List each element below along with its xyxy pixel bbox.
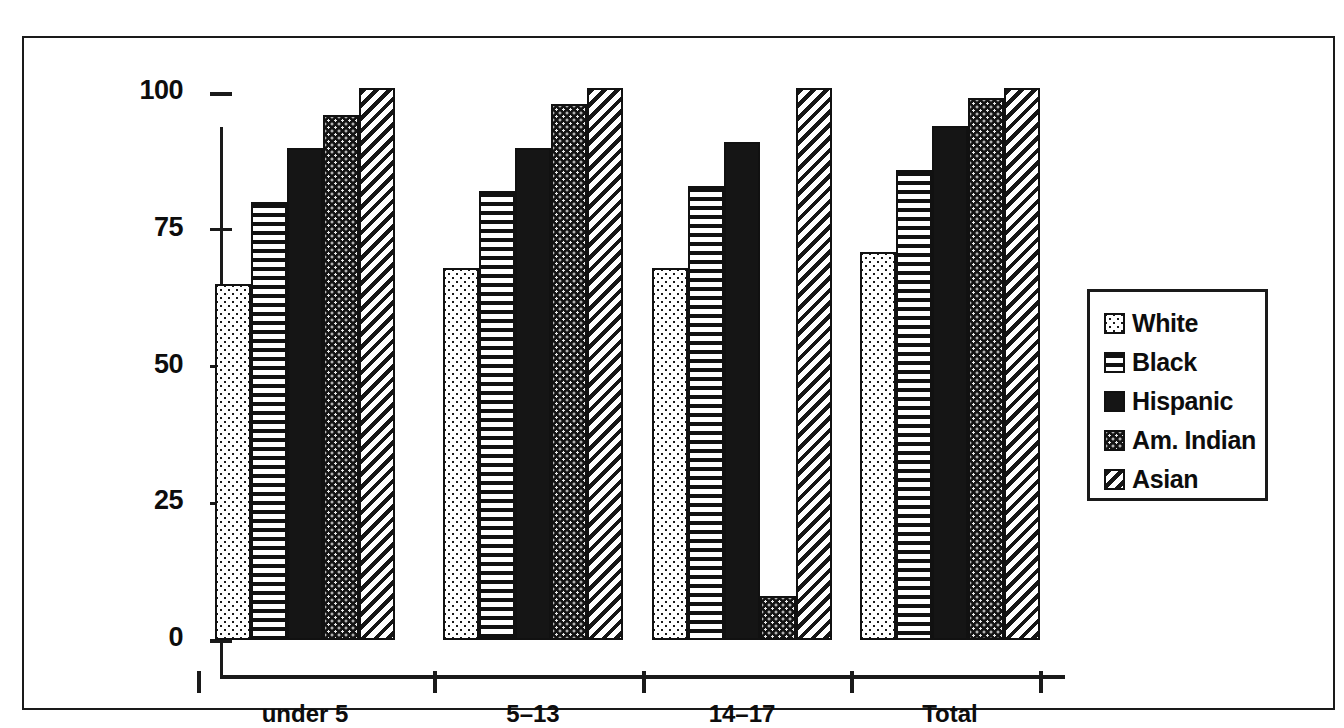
legend-swatch-icon [1104, 352, 1125, 373]
bar-black-total [896, 170, 932, 640]
bar-white-total [860, 252, 896, 640]
x-category-label-1: 5–13 [423, 700, 643, 728]
legend-label: Asian [1132, 465, 1198, 494]
legend-swatch-icon [1104, 391, 1125, 412]
legend-item-black[interactable]: Black [1104, 343, 1265, 382]
legend-item-white[interactable]: White [1104, 304, 1265, 343]
chart-legend: WhiteBlackHispanicAm. IndianAsian [1087, 289, 1268, 501]
chart-frame: 0255075100 under 55–1314–17Total WhiteBl… [22, 36, 1335, 710]
legend-item-hispanic[interactable]: Hispanic [1104, 382, 1265, 421]
legend-swatch-icon [1104, 469, 1125, 490]
x-category-label-2: 14–17 [632, 700, 852, 728]
chart-screenshot: 0255075100 under 55–1314–17Total WhiteBl… [0, 0, 1344, 728]
legend-swatch-icon [1104, 313, 1125, 334]
legend-swatch-icon [1104, 430, 1125, 451]
x-category-label-3: Total [840, 700, 1060, 728]
legend-item-asian[interactable]: Asian [1104, 460, 1265, 499]
bar-hispanic-total [932, 126, 968, 640]
bar-am-indian-total [968, 98, 1004, 640]
x-category-label-0: under 5 [195, 700, 415, 728]
legend-label: White [1132, 309, 1198, 338]
legend-label: Am. Indian [1132, 426, 1256, 455]
bar-asian-total [1004, 88, 1040, 640]
legend-label: Black [1132, 348, 1197, 377]
legend-item-am-indian[interactable]: Am. Indian [1104, 421, 1265, 460]
legend-label: Hispanic [1132, 387, 1233, 416]
